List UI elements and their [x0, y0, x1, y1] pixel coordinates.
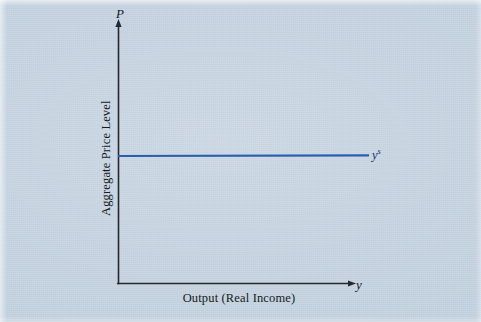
y-axis [115, 19, 121, 284]
x-axis [118, 280, 356, 286]
supply-curve-label-superscript: s [378, 146, 381, 156]
y-axis-title: Aggregate Price Level [100, 100, 113, 216]
supply-curve-label: ys [372, 147, 381, 162]
plot-area [0, 0, 481, 322]
supply-curve [118, 155, 369, 156]
x-axis-variable-label: y [356, 278, 362, 291]
y-axis-variable-label: P [116, 7, 124, 20]
x-axis-title: Output (Real Income) [118, 292, 360, 305]
figure-canvas: P y Aggregate Price Level Output (Real I… [0, 0, 481, 322]
